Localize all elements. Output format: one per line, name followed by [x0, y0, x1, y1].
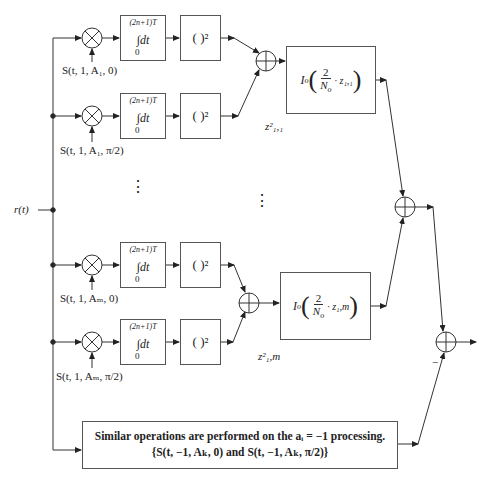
negative-branch-line-1: Similar operations are performed on the …: [83, 428, 397, 444]
integrator-block-row-1: (2n+1)T ∫dt 0: [120, 15, 166, 61]
integrator-block-row-3: (2n+1)T ∫dt 0: [120, 242, 166, 288]
ellipsis-left: ⋮: [130, 180, 146, 194]
ellipsis-right: ⋮: [254, 194, 270, 208]
minus-sign: −: [432, 356, 438, 368]
integrator-lower-limit: 0: [135, 125, 140, 135]
integrator-upper-limit: (2n+1)T: [121, 245, 165, 254]
reference-label-row-4: S(t, 1, Aₘ, π/2): [56, 370, 123, 383]
summer-combined: [395, 197, 415, 217]
reference-label-row-2: S(t, 1, A₁, π/2): [60, 144, 124, 156]
squarer-block-row-3: ( )²: [180, 242, 221, 288]
summer-final: [436, 332, 456, 352]
z-label-m: z²₁,m: [258, 350, 280, 362]
reference-label-row-3: S(t, 1, Aₘ, 0): [60, 292, 118, 305]
bessel-argument: · z₁,m: [327, 301, 349, 312]
fraction: 2 No: [320, 66, 331, 94]
summer-1: [256, 51, 276, 71]
integrator-upper-limit: (2n+1)T: [121, 96, 165, 105]
integrator-lower-limit: 0: [135, 351, 140, 361]
summer-2: [239, 293, 259, 313]
integrator-body: ∫dt: [121, 260, 165, 275]
integrator-body: ∫dt: [121, 33, 165, 48]
negative-branch-box: Similar operations are performed on the …: [82, 421, 398, 469]
integrator-block-row-2: (2n+1)T ∫dt 0: [120, 93, 166, 139]
bessel-block-1: Io ( 2 No · z₁,₁ ): [286, 46, 376, 114]
negative-branch-line-2: {S(t, −1, Aₖ, 0) and S(t, −1, Aₖ, π/2)}: [83, 444, 397, 460]
fraction: 2 No: [313, 292, 324, 320]
integrator-body: ∫dt: [121, 337, 165, 352]
squarer-block-row-4: ( )²: [180, 319, 221, 365]
z-label-1: z²₁,₁: [265, 120, 283, 132]
integrator-upper-limit: (2n+1)T: [121, 322, 165, 331]
bessel-argument: · z₁,₁: [334, 75, 352, 86]
squarer-block-row-1: ( )²: [180, 15, 221, 61]
multiplier-row-2: [82, 106, 102, 126]
reference-label-row-1: S(t, 1, A₁, 0): [62, 64, 117, 76]
multiplier-row-1: [82, 28, 102, 48]
bessel-block-2: Io ( 2 No · z₁,m ): [280, 272, 371, 340]
integrator-lower-limit: 0: [135, 274, 140, 284]
multiplier-row-4: [82, 332, 102, 352]
integrator-upper-limit: (2n+1)T: [121, 18, 165, 27]
input-signal-label: r(t): [14, 203, 29, 215]
integrator-block-row-4: (2n+1)T ∫dt 0: [120, 319, 166, 365]
squarer-block-row-2: ( )²: [180, 93, 221, 139]
integrator-lower-limit: 0: [135, 47, 140, 57]
integrator-body: ∫dt: [121, 111, 165, 126]
multiplier-row-3: [82, 255, 102, 275]
